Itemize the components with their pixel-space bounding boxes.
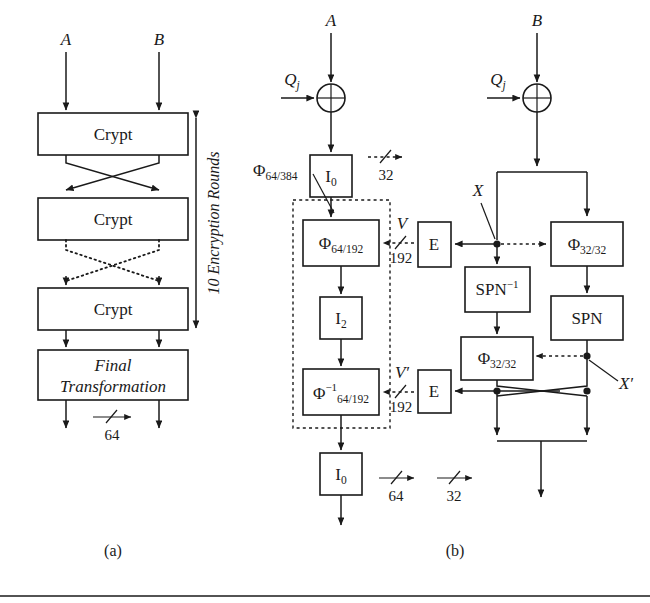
panel-b-signal-v-prime-width: 192 [390, 399, 413, 415]
panel-a-cross-1-left [66, 155, 159, 190]
panel-a-crypt-2-label: Crypt [94, 210, 133, 229]
panel-a-crypt-3-label: Crypt [94, 300, 133, 319]
panel-b-xor-right [523, 84, 551, 112]
panel-a-cross-2-left [66, 240, 159, 281]
panel-b-legend-64-solid: 64 [379, 471, 414, 504]
panel-a-rounds-label: 10 Encryption Rounds [205, 151, 223, 294]
panel-b-e-top-label: E [429, 235, 439, 254]
panel-a-bus-legend-64: 64 [93, 410, 131, 443]
panel-b-legend-32-solid: 32 [437, 471, 472, 504]
panel-a-rounds-annotation: 10 Encryption Rounds [196, 118, 223, 328]
panel-b-signal-x-leader [481, 203, 495, 239]
panel-a-input-b-label: B [154, 30, 165, 49]
panel-b-input-b-label: B [532, 11, 543, 30]
panel-b-signal-v-label: V [397, 214, 410, 233]
panel-a-cross-1-right [66, 155, 159, 190]
panel-b: A Qj I0 Φ64/384 Φ64/192 I2 Φ−164/192 [253, 11, 633, 560]
panel-b-signal-x-prime-label: X′ [618, 374, 633, 393]
panel-a-input-a-label: A [60, 30, 72, 49]
panel-b-signal-x-label: X [472, 181, 484, 200]
panel-b-e-bottom-label: E [429, 382, 439, 401]
panel-b-xor-left [317, 84, 345, 112]
panel-b-legend-64-solid-label: 64 [389, 488, 405, 504]
panel-b-xor-left-key-label: Qj [284, 70, 299, 92]
panel-b-cross-tap-dot-right [583, 387, 590, 394]
panel-b-signal-v-prime-label: V′ [395, 363, 409, 382]
panel-b-signal-v-prime-slash [395, 385, 406, 398]
panel-a-bus-legend-64-label: 64 [105, 427, 121, 443]
panel-a: A B Crypt Crypt Crypt Final Transformati… [38, 30, 223, 560]
panel-b-phi-64-384-label: Φ64/384 [253, 161, 298, 182]
panel-b-input-a-label: A [325, 11, 337, 30]
panel-b-signal-v-slash [395, 236, 406, 249]
panel-b-xor-right-key-label: Qj [490, 70, 505, 92]
cipher-architecture-figure: A B Crypt Crypt Crypt Final Transformati… [0, 0, 650, 603]
panel-a-caption: (a) [104, 542, 122, 560]
panel-b-signal-v-width: 192 [390, 250, 413, 266]
panel-a-final-transformation-label-line1: Final [94, 356, 132, 375]
panel-a-final-transformation-label-line2: Transformation [60, 377, 166, 396]
panel-b-caption: (b) [446, 542, 465, 560]
panel-b-legend-32-dashed-label: 32 [379, 167, 394, 183]
panel-b-legend-32-solid-label: 32 [447, 488, 462, 504]
panel-a-cross-2-right [66, 240, 159, 281]
figure-canvas: A B Crypt Crypt Crypt Final Transformati… [0, 0, 650, 603]
panel-b-legend-32-dashed: 32 [368, 150, 402, 183]
panel-b-signal-x-prime-leader [589, 360, 618, 381]
panel-a-crypt-1-label: Crypt [94, 125, 133, 144]
panel-b-spn-label: SPN [571, 309, 602, 328]
